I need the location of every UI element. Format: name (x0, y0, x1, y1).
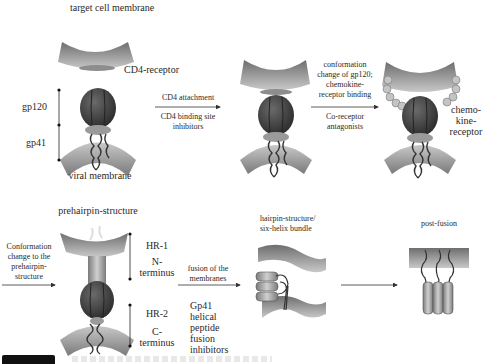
cd4-attachment-label: CD4 attachment (154, 93, 222, 103)
stage-post-fusion (409, 248, 469, 314)
post-fusion-title: post-fusion (414, 219, 464, 229)
gp41 (85, 125, 111, 135)
conformation-to-prehairpin-label: Conformation change to the prehairpin- s… (0, 242, 58, 282)
caption-marker (2, 355, 55, 364)
hr2-label: HR-2 (140, 308, 174, 319)
conformation-change-label: conformation change of gp120; chemokine-… (310, 60, 380, 100)
stage-cd4-attached (240, 60, 312, 177)
gp120-label: gp120 (22, 101, 47, 112)
stage-initial (57, 42, 136, 176)
six-helix-bundle-title: hairpin-structure/ six-helix bundle (260, 214, 316, 234)
caption-text-faint (72, 356, 272, 362)
target-cell-membrane-label: target cell membrane (70, 2, 126, 13)
gp41-fusion-inhibitors-label: Gp41 helical peptide fusion inhibitors (190, 300, 228, 355)
post-fusion-helices (423, 282, 453, 314)
cd4-receptor-label: CD4-receptor (124, 64, 179, 75)
chemokine-receptor-label: chemo- kine- receptor (446, 104, 486, 137)
cd4-binding-site-inhibitors-label: CD4 binding site inhibitors (160, 112, 216, 132)
fusion-of-membranes-label: fusion of the membranes (176, 264, 240, 284)
gp41-label: gp41 (26, 137, 46, 148)
gp120-trimer (80, 88, 116, 128)
hiv-fusion-diagram (0, 0, 486, 364)
n-terminus-label: N- terminus (134, 256, 180, 278)
cd4-receptor (79, 65, 115, 71)
target-cell-membrane (58, 42, 134, 69)
stage-six-helix-bundle (256, 245, 326, 318)
stage-prehairpin (60, 226, 134, 356)
prehairpin-structure-title: prehairpin-structure (58, 205, 138, 216)
co-receptor-antagonists-label: Co-receptor antagonists (314, 112, 376, 132)
hr1-label: HR-1 (140, 240, 174, 251)
c-terminus-label: C- terminus (134, 326, 180, 348)
viral-membrane-label: viral membrane (66, 170, 134, 181)
helix-bundle (256, 272, 278, 301)
